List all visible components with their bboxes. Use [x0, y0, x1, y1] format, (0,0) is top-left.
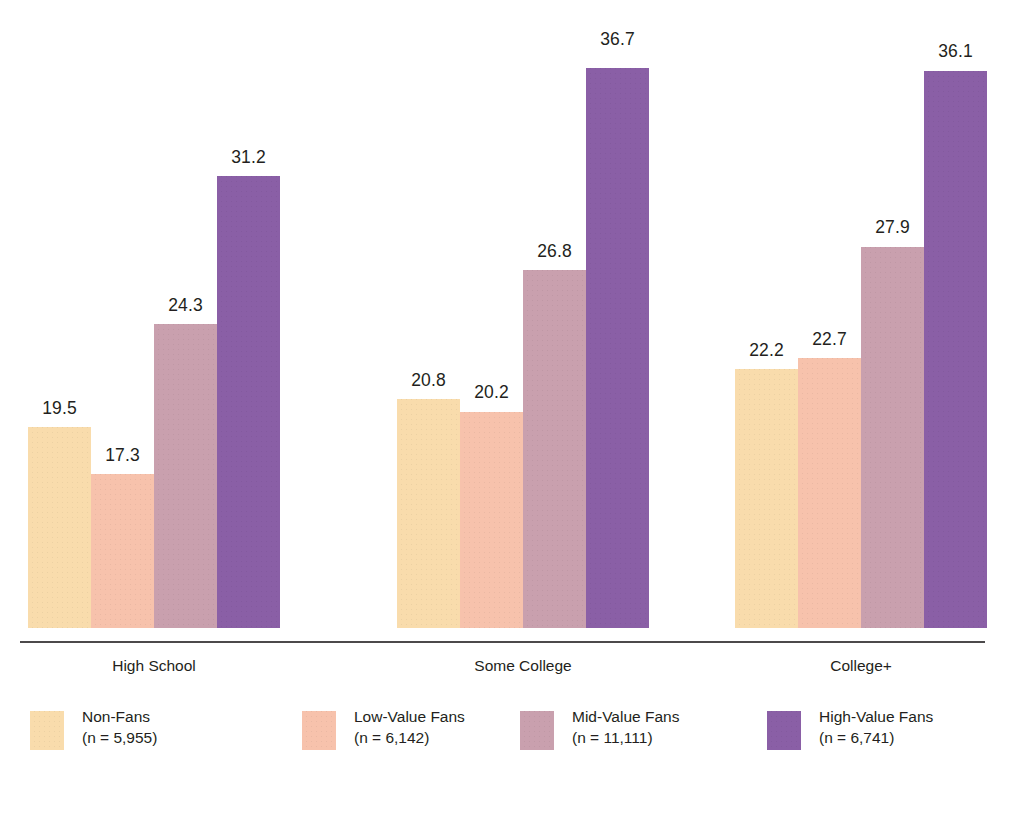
grouped-bar-chart: 19.517.324.331.220.820.226.836.722.222.7… — [0, 0, 1034, 820]
bar-slot: 17.3 — [91, 68, 154, 628]
legend-item-0[interactable]: Non-Fans(n = 5,955) — [30, 706, 157, 750]
bar — [798, 358, 861, 628]
legend-swatch-icon — [520, 711, 554, 750]
legend-item-1[interactable]: Low-Value Fans(n = 6,142) — [302, 706, 465, 750]
category-label-0: High School — [112, 655, 196, 677]
legend-sample-size: (n = 6,741) — [819, 727, 933, 748]
bar-group: 19.517.324.331.2 — [28, 68, 280, 628]
bar — [523, 270, 586, 628]
legend-sample-size: (n = 6,142) — [354, 727, 465, 748]
bar — [397, 399, 460, 628]
bar — [861, 247, 924, 628]
legend-item-3[interactable]: High-Value Fans(n = 6,741) — [767, 706, 933, 750]
bar-group: 22.222.727.936.1 — [735, 68, 987, 628]
category-axis-labels: High SchoolSome CollegeCollege+ — [0, 655, 1034, 681]
category-label-1: Some College — [474, 655, 571, 677]
bar-slot: 24.3 — [154, 68, 217, 628]
bar-slot: 36.1 — [924, 68, 987, 628]
bar-slot: 19.5 — [28, 68, 91, 628]
legend-text: Low-Value Fans(n = 6,142) — [354, 706, 465, 748]
bar-group: 20.820.226.836.7 — [397, 68, 649, 628]
bar — [154, 324, 217, 628]
legend-series-name: Low-Value Fans — [354, 706, 465, 727]
bar — [924, 71, 987, 628]
bar-value-label: 26.8 — [537, 243, 571, 261]
bar-value-label: 22.7 — [812, 331, 846, 349]
legend-text: Mid-Value Fans(n = 11,111) — [572, 706, 679, 748]
bar-slot: 27.9 — [861, 68, 924, 628]
bar-slot: 26.8 — [523, 68, 586, 628]
legend-sample-size: (n = 5,955) — [82, 727, 157, 748]
bar-slot: 36.7 — [586, 68, 649, 628]
legend-text: High-Value Fans(n = 6,741) — [819, 706, 933, 748]
legend-series-name: Mid-Value Fans — [572, 706, 679, 727]
bar-value-label: 31.2 — [231, 149, 265, 167]
bar-value-label: 20.2 — [474, 384, 508, 402]
bar-value-label: 36.1 — [938, 43, 972, 61]
x-axis-baseline — [20, 641, 985, 643]
bar-value-label: 27.9 — [875, 219, 909, 237]
legend-swatch-icon — [767, 711, 801, 750]
bar-slot: 20.2 — [460, 68, 523, 628]
legend-series-name: Non-Fans — [82, 706, 157, 727]
bar — [28, 427, 91, 628]
bar-value-label: 22.2 — [749, 342, 783, 360]
bar-slot: 22.7 — [798, 68, 861, 628]
bar-value-label: 19.5 — [42, 400, 76, 418]
bar-slot: 20.8 — [397, 68, 460, 628]
category-label-2: College+ — [830, 655, 892, 677]
bar — [586, 68, 649, 628]
chart-legend: Non-Fans(n = 5,955)Low-Value Fans(n = 6,… — [0, 706, 1034, 776]
bar — [217, 176, 280, 628]
legend-sample-size: (n = 11,111) — [572, 727, 679, 748]
bar-value-label: 17.3 — [105, 447, 139, 465]
legend-text: Non-Fans(n = 5,955) — [82, 706, 157, 748]
legend-swatch-icon — [302, 711, 336, 750]
bar-value-label: 36.7 — [600, 31, 634, 49]
bar — [91, 474, 154, 628]
legend-swatch-icon — [30, 711, 64, 750]
bar-value-label: 20.8 — [411, 372, 445, 390]
legend-item-2[interactable]: Mid-Value Fans(n = 11,111) — [520, 706, 679, 750]
bar — [460, 412, 523, 628]
legend-series-name: High-Value Fans — [819, 706, 933, 727]
bar-value-label: 24.3 — [168, 297, 202, 315]
plot-area: 19.517.324.331.220.820.226.836.722.222.7… — [0, 0, 1034, 645]
bar-slot: 31.2 — [217, 68, 280, 628]
bar — [735, 369, 798, 628]
bar-slot: 22.2 — [735, 68, 798, 628]
